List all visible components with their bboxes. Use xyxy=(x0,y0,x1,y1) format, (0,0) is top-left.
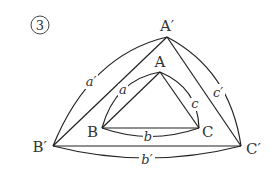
side-label-a-prime: a′ xyxy=(86,74,97,89)
vertex-label-a: A xyxy=(154,53,166,71)
side-label-c: c xyxy=(191,96,199,111)
inner-triangle xyxy=(102,72,199,137)
nested-triangles-diagram: 3 A′ B′ C′ a′ c′ b′ A B C a c b xyxy=(0,0,270,176)
vertex-label-c-prime: C′ xyxy=(246,140,261,158)
vertex-label-b-prime: B′ xyxy=(33,138,48,156)
side-label-a: a xyxy=(119,82,127,97)
vertex-label-c: C xyxy=(202,123,213,141)
side-label-b-prime: b′ xyxy=(141,152,152,167)
side-label-c-prime: c′ xyxy=(213,85,223,100)
vertex-label-b: B xyxy=(87,123,98,141)
figure-number-badge: 3 xyxy=(31,16,49,34)
vertex-label-a-prime: A′ xyxy=(159,17,175,35)
figure-number: 3 xyxy=(36,18,44,33)
inner-edge-left xyxy=(102,72,160,128)
side-label-b: b xyxy=(144,129,152,144)
